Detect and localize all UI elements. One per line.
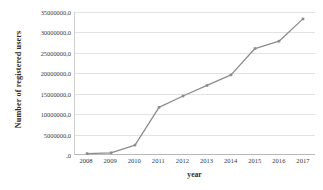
- y-axis-tick-label: ,0: [66, 152, 71, 159]
- x-axis-tick-labels: 2008200920102011201220132014201520162017: [74, 157, 315, 169]
- x-axis-tick-label: 2010: [128, 157, 141, 164]
- x-axis-tick-label: 2017: [296, 157, 309, 164]
- data-point-marker: [110, 151, 113, 154]
- x-axis-tick-label: 2013: [200, 157, 213, 164]
- data-point-marker: [134, 144, 137, 147]
- x-axis-tick-label: 2011: [152, 157, 165, 164]
- data-point-marker: [86, 152, 89, 155]
- y-axis-title-label: Number of registered users: [15, 30, 24, 127]
- data-point-marker: [278, 40, 281, 43]
- series-line: [75, 12, 315, 154]
- line-chart: Number of registered users ,05000000,010…: [0, 0, 323, 190]
- data-point-marker: [206, 84, 209, 87]
- data-point-marker: [254, 47, 257, 50]
- data-point-marker: [182, 95, 185, 98]
- x-axis-tick-label: 2014: [224, 157, 237, 164]
- y-axis-tick-label: 30000000,0: [41, 29, 71, 36]
- y-axis-tick-label: 20000000,0: [41, 70, 71, 77]
- y-axis-tick-label: 25000000,0: [41, 49, 71, 56]
- x-axis-tick-label: 2016: [272, 157, 285, 164]
- x-axis-tick-label: 2009: [104, 157, 117, 164]
- x-axis-tick-label: 2012: [176, 157, 189, 164]
- x-axis-title: year: [74, 170, 315, 179]
- data-point-marker: [230, 74, 233, 77]
- y-axis-tick-label: 10000000,0: [41, 111, 71, 118]
- y-axis-title: Number of registered users: [12, 0, 26, 158]
- data-point-marker: [302, 18, 305, 21]
- y-axis-tick-labels: ,05000000,010000000,015000000,020000000,…: [26, 0, 73, 163]
- plot-area: [74, 12, 315, 155]
- data-point-marker: [158, 106, 161, 109]
- x-axis-tick-label: 2015: [248, 157, 261, 164]
- x-axis-tick-label: 2008: [79, 157, 92, 164]
- y-axis-tick-label: 5000000,0: [44, 131, 71, 138]
- y-axis-tick-label: 35000000,0: [41, 9, 71, 16]
- data-line: [87, 19, 303, 154]
- y-axis-tick-label: 15000000,0: [41, 90, 71, 97]
